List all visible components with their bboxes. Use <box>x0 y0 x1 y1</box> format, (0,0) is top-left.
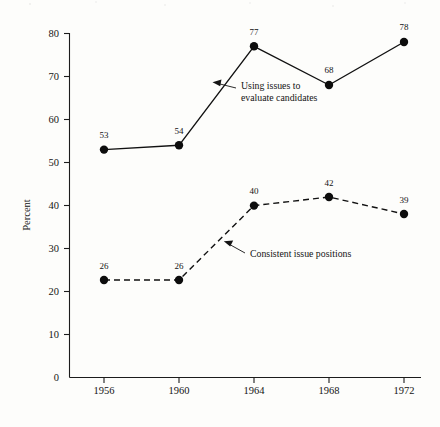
annotation-label-consistent-positions: Consistent issue positions <box>250 248 351 259</box>
y-tick-label-60: 60 <box>49 114 60 125</box>
data-point-using-issues-1964 <box>250 42 258 50</box>
y-tick-label-50: 50 <box>49 157 60 168</box>
value-label-using-issues-1956: 53 <box>100 130 110 140</box>
value-label-using-issues-1964: 77 <box>250 27 260 37</box>
value-label-using-issues-1960: 54 <box>175 126 185 136</box>
chart-page: 80 70 60 50 40 30 20 10 0 Percent 1956 1… <box>0 0 440 427</box>
y-axis-title: Percent <box>21 199 32 231</box>
data-point-using-issues-1956 <box>100 145 108 153</box>
y-tick-label-0: 0 <box>54 372 59 383</box>
data-point-using-issues-1968 <box>325 81 333 89</box>
y-tick-label-20: 20 <box>49 286 60 297</box>
value-label-consistent-positions-1956: 26 <box>100 261 110 271</box>
line-chart: 80 70 60 50 40 30 20 10 0 Percent 1956 1… <box>0 0 440 427</box>
y-tick-label-70: 70 <box>49 71 60 82</box>
annotation-using-issues: Using issues to evaluate candidates <box>213 80 318 103</box>
annotation-label-using-issues-line1: Using issues to <box>241 80 300 91</box>
x-tick-label-1964: 1964 <box>244 385 266 396</box>
value-label-using-issues-1972: 78 <box>400 22 410 32</box>
data-point-consistent-positions-1972 <box>400 210 408 218</box>
y-tick-label-30: 30 <box>49 243 60 254</box>
value-label-using-issues-1968: 68 <box>325 65 335 75</box>
value-label-consistent-positions-1960: 26 <box>175 261 185 271</box>
y-tick-label-10: 10 <box>49 329 60 340</box>
series-consistent-issue-positions: 26 26 40 42 39 <box>100 178 410 284</box>
data-point-using-issues-1972 <box>400 38 408 46</box>
annotation-label-using-issues-line2: evaluate candidates <box>241 92 318 103</box>
x-tick-label-1956: 1956 <box>94 385 115 396</box>
data-point-consistent-positions-1956 <box>100 276 108 284</box>
y-axis-ticks: 80 70 60 50 40 30 20 10 0 <box>49 28 70 383</box>
value-label-consistent-positions-1972: 39 <box>400 195 410 205</box>
value-label-consistent-positions-1964: 40 <box>250 186 260 196</box>
value-label-consistent-positions-1968: 42 <box>325 178 334 188</box>
y-tick-label-80: 80 <box>49 28 60 39</box>
x-tick-label-1972: 1972 <box>394 385 415 396</box>
data-point-consistent-positions-1968 <box>325 193 333 201</box>
data-point-consistent-positions-1960 <box>175 276 183 284</box>
annotation-arrowhead-using-issues <box>213 80 222 87</box>
data-point-using-issues-1960 <box>175 141 183 149</box>
annotation-consistent-positions: Consistent issue positions <box>224 241 352 259</box>
x-tick-label-1968: 1968 <box>319 385 340 396</box>
x-tick-label-1960: 1960 <box>169 385 190 396</box>
y-tick-label-40: 40 <box>49 200 60 211</box>
x-axis-ticks: 1956 1960 1964 1968 1972 <box>94 378 415 397</box>
data-point-consistent-positions-1964 <box>250 201 258 209</box>
